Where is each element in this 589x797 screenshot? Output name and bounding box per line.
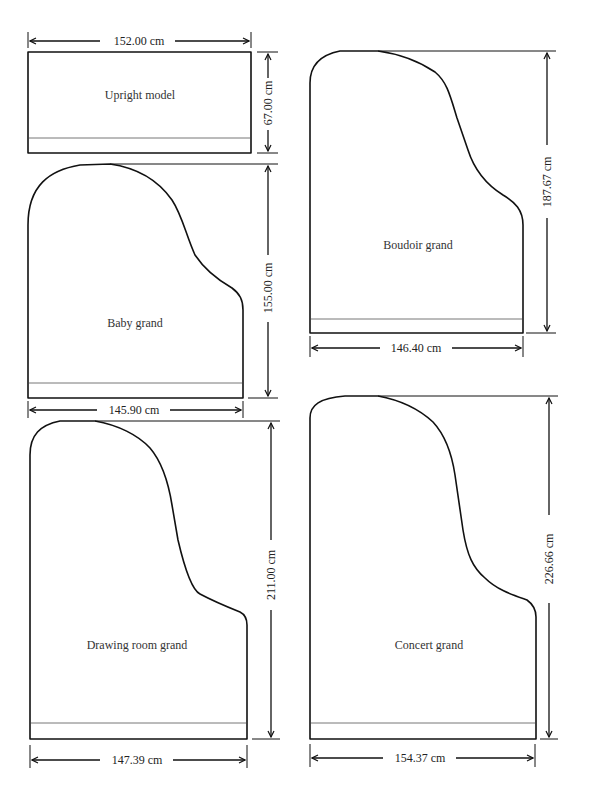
- upright-label: Upright model: [105, 88, 176, 102]
- baby-grand-outline: [28, 164, 243, 398]
- drawing-room-depth-label: 211.00 cm: [264, 549, 278, 600]
- boudoir-label: Boudoir grand: [383, 238, 453, 252]
- upright-width-label: 152.00 cm: [114, 34, 165, 48]
- drawing-room-label: Drawing room grand: [87, 638, 188, 652]
- concert-grand-depth-label: 226.66 cm: [542, 533, 556, 584]
- boudoir-grand-figure: Boudoir grand 187.67 cm 146.40 cm: [310, 51, 556, 357]
- drawing-room-grand-figure: Drawing room grand 211.00 cm 147.39 cm: [30, 421, 280, 768]
- baby-grand-depth-label: 155.00 cm: [261, 262, 275, 313]
- boudoir-outline: [310, 51, 523, 333]
- concert-grand-outline: [310, 396, 536, 739]
- baby-grand-width-label: 145.90 cm: [109, 403, 160, 417]
- concert-grand-label: Concert grand: [395, 638, 463, 652]
- piano-size-diagram: Upright model 152.00 cm 67.00 cm Boudoir…: [0, 0, 589, 797]
- boudoir-depth-label: 187.67 cm: [540, 156, 554, 207]
- concert-grand-figure: Concert grand 226.66 cm 154.37 cm: [310, 396, 558, 767]
- baby-grand-label: Baby grand: [107, 316, 163, 330]
- baby-grand-figure: Baby grand 155.00 cm 145.90 cm: [28, 164, 278, 418]
- upright-model-figure: Upright model 152.00 cm 67.00 cm: [28, 32, 278, 153]
- drawing-room-outline: [30, 421, 247, 739]
- concert-grand-width-label: 154.37 cm: [395, 751, 446, 765]
- upright-depth-label: 67.00 cm: [261, 80, 275, 125]
- boudoir-width-label: 146.40 cm: [391, 341, 442, 355]
- drawing-room-width-label: 147.39 cm: [112, 753, 163, 767]
